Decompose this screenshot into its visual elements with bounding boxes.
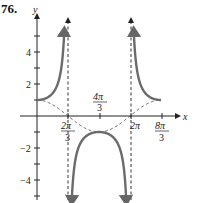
x-tick-label-4pi-over-3: 4π 3	[93, 91, 107, 113]
y-tick-label-4: 4	[26, 47, 31, 58]
x-axis-label: x	[182, 111, 188, 122]
secant-branch-middle-left	[72, 132, 99, 201]
secant-branch-left	[37, 31, 64, 100]
x-tick-label-2pi: 2π	[130, 120, 141, 131]
y-tick-label-neg4: −4	[20, 175, 31, 186]
svg-text:8π: 8π	[155, 120, 166, 131]
svg-text:2π: 2π	[61, 120, 72, 131]
svg-text:4π: 4π	[93, 91, 104, 102]
graph: y x 4 2 −2 −4 2π 3 4π 3 2π 8π 3	[0, 0, 198, 203]
svg-text:3: 3	[159, 132, 164, 143]
y-tick-label-neg2: −2	[20, 143, 31, 154]
secant-branch-middle-right	[99, 132, 126, 201]
x-tick-label-8pi-over-3: 8π 3	[155, 120, 169, 143]
secant-branch-right	[134, 31, 161, 100]
y-axis-label: y	[32, 4, 38, 15]
y-tick-label-2: 2	[26, 79, 31, 90]
svg-text:3: 3	[97, 102, 102, 113]
